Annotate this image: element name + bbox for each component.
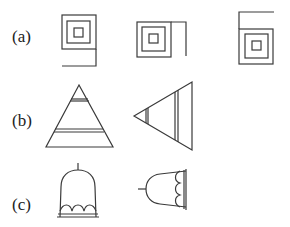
bell-upright: [57, 163, 99, 217]
nested-squares-tail-bottom: [62, 15, 96, 66]
triangle-upright: [46, 85, 113, 147]
nested-squares-tail-right: [137, 22, 186, 57]
nested-squares-tail-top: [239, 12, 274, 64]
bell-pointing-left: [138, 169, 186, 210]
diagram-canvas: [0, 0, 290, 227]
triangle-pointing-left: [134, 82, 192, 150]
